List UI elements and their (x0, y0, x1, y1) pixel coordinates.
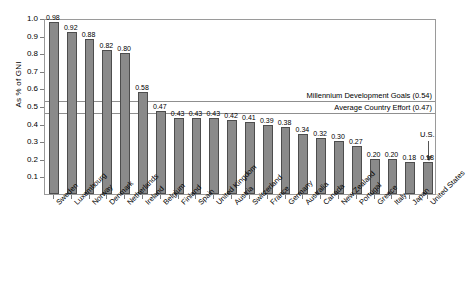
y-axis-tick-label: 0.1 (12, 173, 38, 181)
x-axis-tick-mark (53, 195, 54, 199)
us-annotation-label: U.S. (420, 131, 435, 139)
bar (85, 39, 95, 194)
y-axis-tick-label: 0.9 (12, 33, 38, 41)
y-axis-tick-label: 0.3 (12, 138, 38, 146)
bar-value-label: 0.92 (60, 24, 82, 31)
reference-line-label: Millennium Development Goals (0.54) (307, 92, 432, 100)
bar (209, 118, 219, 194)
bar (405, 162, 415, 194)
y-axis-tick-label: 0.7 (12, 68, 38, 76)
y-axis-tick-label: 0.8 (12, 50, 38, 58)
bar-value-label: 0.98 (42, 14, 64, 21)
bar-value-label: 0.88 (78, 31, 100, 38)
y-axis-tick-label: 0.2 (12, 156, 38, 164)
bar-value-label: 0.58 (131, 84, 153, 91)
bar-value-label: 0.38 (274, 119, 296, 126)
y-axis-tick-label: 0.5 (12, 103, 38, 111)
bar (49, 22, 59, 194)
y-axis-tick-label: 1.0 (12, 15, 38, 23)
bar (156, 111, 166, 194)
y-axis-tick-label: 0.6 (12, 85, 38, 93)
bar-value-label: 0.47 (149, 103, 171, 110)
bar (245, 122, 255, 194)
bar-value-label: 0.27 (345, 138, 367, 145)
x-axis-tick-mark (409, 195, 410, 199)
y-axis-tick-label: 0.4 (12, 121, 38, 129)
bar (120, 53, 130, 194)
bar-value-label: 0.18 (416, 154, 438, 161)
reference-line-label: Average Country Effort (0.47) (334, 104, 432, 112)
bar-value-label: 0.80 (113, 45, 135, 52)
bar (67, 32, 77, 194)
